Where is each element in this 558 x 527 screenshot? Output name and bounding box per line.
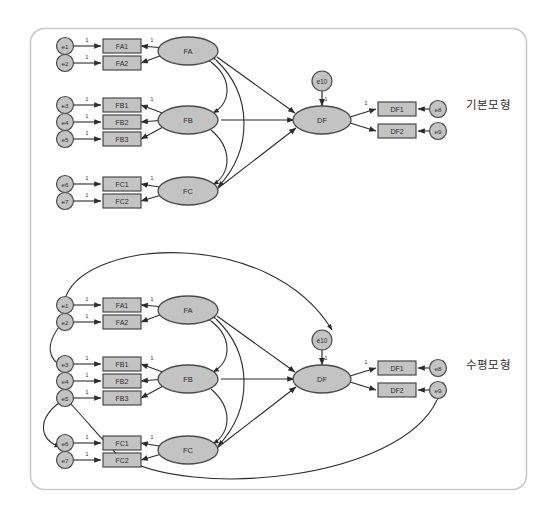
label-e10: e10 <box>317 78 328 85</box>
label-e10-h: e10 <box>317 337 328 344</box>
label-e5-h: e5 <box>62 395 69 402</box>
weight-e4-h: 1 <box>86 372 89 378</box>
exogenous-errors-basic: e1 e2 e3 e4 e5 e6 e7 <box>57 38 74 210</box>
weight-e2: 1 <box>86 54 89 60</box>
label-e8: e8 <box>435 106 442 113</box>
label-fa1: FA1 <box>116 43 129 50</box>
exogenous-errors-horizontal: e1 e2 e3 e4 e5 e6 e7 <box>57 297 74 469</box>
label-fa-h: FA <box>183 306 192 315</box>
weight-fa1: 1 <box>151 37 154 43</box>
label-fa1-h: FA1 <box>116 302 129 309</box>
weight-e5-h: 1 <box>86 389 89 395</box>
weight-fc1-h: 1 <box>151 434 154 440</box>
weight-e3: 1 <box>86 96 89 102</box>
label-fb-h: FB <box>183 375 193 384</box>
label-e8-h: e8 <box>435 365 442 372</box>
label-fb: FB <box>183 116 193 125</box>
label-e2: e2 <box>62 60 69 67</box>
label-fc1-h: FC1 <box>115 440 128 447</box>
weight-e1: 1 <box>86 37 89 43</box>
diagram-canvas: e1 e2 e3 e4 e5 e6 e7 1 1 1 1 1 1 1 1 1 1… <box>0 0 558 527</box>
label-fc-h: FC <box>183 446 194 455</box>
weight-e6-h: 1 <box>86 434 89 440</box>
exogenous-indicators-horizontal: FA1 FA2 FB1 FB2 FB3 FC1 FC2 <box>103 298 141 467</box>
label-e6-h: e6 <box>62 440 69 447</box>
weight-fa1-h: 1 <box>151 296 154 302</box>
label-e1: e1 <box>62 43 69 50</box>
label-fa: FA <box>183 47 192 56</box>
weight-e4: 1 <box>86 113 89 119</box>
weight-e7-h: 1 <box>86 451 89 457</box>
label-fb1-h: FB1 <box>116 361 129 368</box>
label-e1-h: e1 <box>62 302 69 309</box>
label-e6: e6 <box>62 181 69 188</box>
sem-path-diagram: e1 e2 e3 e4 e5 e6 e7 1 1 1 1 1 1 1 1 1 1… <box>0 0 558 527</box>
label-fc: FC <box>183 187 194 196</box>
weight-e2-h: 1 <box>86 313 89 319</box>
label-e2-h: e2 <box>62 319 69 326</box>
label-fb3-h: FB3 <box>116 395 129 402</box>
label-e4: e4 <box>62 119 69 126</box>
label-fc1: FC1 <box>115 181 128 188</box>
weight-e7: 1 <box>86 192 89 198</box>
label-e4-h: e4 <box>62 378 69 385</box>
weight-fb1-h: 1 <box>151 355 154 361</box>
weight-e10-h: 1 <box>325 355 328 361</box>
label-fb1: FB1 <box>116 102 129 109</box>
label-fb3: FB3 <box>116 136 129 143</box>
label-df1-h: DF1 <box>390 365 403 372</box>
label-e7-h: e7 <box>62 457 69 464</box>
model-label-horizontal: 수평모형 <box>466 356 511 372</box>
weight-fc1: 1 <box>151 175 154 181</box>
label-e7: e7 <box>62 198 69 205</box>
label-fb2: FB2 <box>116 119 129 126</box>
label-e3: e3 <box>62 102 69 109</box>
weight-fb1: 1 <box>151 96 154 102</box>
label-df2-h: DF2 <box>390 387 403 394</box>
label-df: DF <box>317 116 327 125</box>
label-e5: e5 <box>62 136 69 143</box>
label-df1: DF1 <box>390 106 403 113</box>
label-fc2-h: FC2 <box>115 457 128 464</box>
label-e3-h: e3 <box>62 361 69 368</box>
label-fc2: FC2 <box>115 198 128 205</box>
label-e9: e9 <box>435 128 442 135</box>
label-fa2: FA2 <box>116 60 129 67</box>
weight-e1-h: 1 <box>86 296 89 302</box>
label-fb2-h: FB2 <box>116 378 129 385</box>
weight-e10: 1 <box>325 96 328 102</box>
label-fa2-h: FA2 <box>116 319 129 326</box>
weight-e3-h: 1 <box>86 355 89 361</box>
weight-e5: 1 <box>86 130 89 136</box>
label-df2: DF2 <box>390 128 403 135</box>
weight-e6: 1 <box>86 175 89 181</box>
model-label-basic: 기본모형 <box>466 96 511 112</box>
label-df-h: DF <box>317 375 327 384</box>
exogenous-indicators-basic: FA1 FA2 FB1 FB2 FB3 FC1 FC2 <box>103 39 141 208</box>
weight-df1-h: 1 <box>365 359 368 365</box>
weight-df1: 1 <box>365 100 368 106</box>
label-e9-h: e9 <box>435 387 442 394</box>
